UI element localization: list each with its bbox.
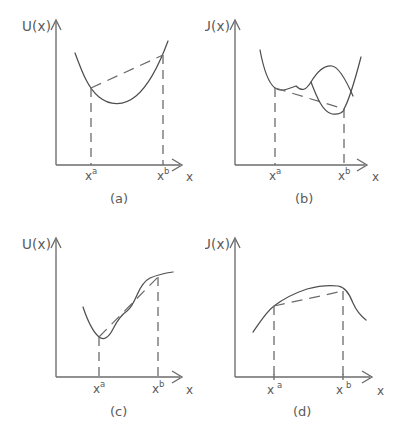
y-axis-label: U(x) xyxy=(205,18,230,34)
panel-a: U(x) x a x b x (a) xyxy=(0,0,204,214)
chord-line xyxy=(99,277,158,337)
chord-line xyxy=(275,88,344,109)
panel-d: U(x) x a x b x (d) xyxy=(205,215,409,429)
y-axis-label: U(x) xyxy=(205,236,230,252)
x-axis-label: x xyxy=(186,170,193,184)
utility-curve xyxy=(75,41,168,104)
tick-label-xb: x xyxy=(336,383,343,397)
panel-d-plot: U(x) x a x b x (d) xyxy=(205,215,409,429)
x-axis-label: x xyxy=(377,384,384,398)
panel-c-plot: U(x) x a x b x (c) xyxy=(0,215,204,429)
tick-superscript-b: b xyxy=(159,379,164,389)
utility-curve xyxy=(253,286,366,332)
tick-superscript-a: a xyxy=(100,379,105,389)
panel-b: U(x) x a x b x (b) xyxy=(205,0,409,214)
chord-line xyxy=(91,55,163,88)
panel-a-plot: U(x) x a x b x (a) xyxy=(0,0,204,214)
utility-curve xyxy=(83,272,173,339)
panel-caption-b: (b) xyxy=(295,191,313,206)
tick-superscript-a: a xyxy=(276,166,281,176)
tick-superscript-b: b xyxy=(164,166,169,176)
panel-caption-c: (c) xyxy=(110,404,127,419)
tick-superscript-b: b xyxy=(345,166,350,176)
tick-label-xa: x xyxy=(267,383,274,397)
tick-superscript-b: b xyxy=(346,380,351,390)
panel-caption-d: (d) xyxy=(293,404,311,419)
tick-superscript-a: a xyxy=(277,380,282,390)
utility-curve xyxy=(260,50,353,96)
y-axis-label: U(x) xyxy=(22,236,51,252)
panel-caption-a: (a) xyxy=(110,191,128,206)
panel-b-plot: U(x) x a x b x (b) xyxy=(205,0,409,214)
figure-grid: U(x) x a x b x (a) U(x) x xyxy=(0,0,409,429)
tick-superscript-a: a xyxy=(92,166,97,176)
panel-c: U(x) x a x b x (c) xyxy=(0,215,204,429)
y-axis-label: U(x) xyxy=(22,18,51,34)
x-axis-label: x xyxy=(372,170,379,184)
utility-curve-valley xyxy=(311,82,344,114)
x-axis-label: x xyxy=(186,383,193,397)
